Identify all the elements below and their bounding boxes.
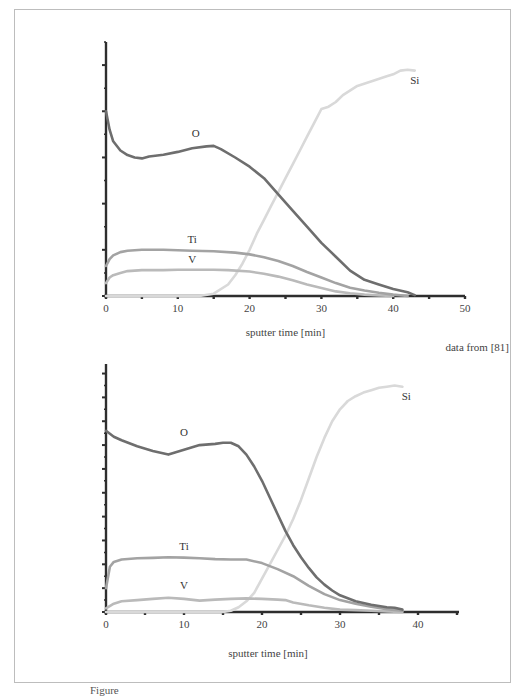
series-line-si <box>106 386 402 613</box>
x-tick-label: 30 <box>335 618 347 630</box>
series-label-v: V <box>180 579 188 591</box>
x-tick <box>300 612 302 615</box>
series-label-ti: Ti <box>179 540 188 552</box>
x-tick <box>456 612 458 615</box>
x-tick-label: 20 <box>257 618 269 630</box>
series-line-o <box>106 431 402 610</box>
series-label-o: O <box>180 426 188 438</box>
x-axis-title: sputter time [min] <box>228 647 307 659</box>
x-tick <box>261 612 263 615</box>
x-tick-label: 10 <box>179 618 191 630</box>
x-tick-label: 40 <box>413 618 425 630</box>
x-tick <box>339 612 341 615</box>
figure-caption: Figure <box>90 684 119 696</box>
series-label-si: Si <box>402 390 411 402</box>
x-tick-label: 0 <box>103 618 109 630</box>
chart-1-axes: 010203040sputter time [min] <box>102 364 459 659</box>
x-tick <box>417 612 419 615</box>
